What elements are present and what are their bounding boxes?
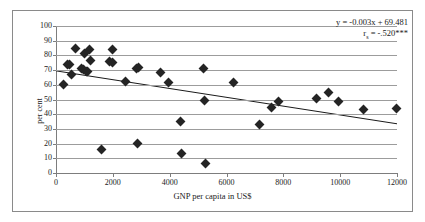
gridline-y-80	[56, 55, 397, 56]
gridline-y-10	[56, 158, 397, 159]
gridline-y-50	[56, 100, 397, 101]
y-tick-label-70: 70	[44, 66, 52, 74]
x-axis-title: GNP per capita in US$	[13, 191, 412, 201]
data-point	[71, 43, 81, 53]
x-tick-label-4000: 4000	[162, 179, 178, 187]
data-point	[274, 96, 284, 106]
y-tick-mark-60	[53, 85, 56, 86]
y-tick-mark-40	[53, 114, 56, 115]
gridline-y-60	[56, 85, 397, 86]
plot-area: 0102030405060708090100020004000600080001…	[56, 26, 397, 173]
data-point	[133, 138, 143, 148]
data-point	[97, 145, 107, 155]
x-tick-label-10000: 10000	[330, 179, 350, 187]
gridline-y-30	[56, 129, 397, 130]
y-tick-mark-100	[53, 26, 56, 27]
y-tick-label-40: 40	[44, 110, 52, 118]
data-point	[334, 96, 344, 106]
y-axis-title: per cent	[35, 98, 44, 124]
gridline-y-40	[56, 114, 397, 115]
data-point	[200, 158, 210, 168]
y-tick-label-90: 90	[44, 37, 52, 45]
data-point	[312, 94, 322, 104]
data-point	[156, 67, 166, 77]
x-tick-label-12000: 12000	[387, 179, 407, 187]
y-tick-label-100: 100	[40, 22, 52, 30]
correlation-statistic: rs = -.520***	[336, 28, 408, 43]
regression-annotation: y = -0.003x + 69.481 rs = -.520***	[336, 17, 408, 43]
x-tick-label-0: 0	[54, 179, 58, 187]
y-tick-label-60: 60	[44, 81, 52, 89]
x-tick-mark-6000	[227, 173, 228, 177]
data-point	[200, 96, 210, 106]
x-tick-label-2000: 2000	[105, 179, 121, 187]
y-tick-mark-80	[53, 55, 56, 56]
data-point	[58, 79, 68, 89]
data-point	[83, 67, 93, 77]
y-tick-mark-90	[53, 41, 56, 42]
y-tick-mark-10	[53, 158, 56, 159]
x-tick-mark-2000	[113, 173, 114, 177]
y-tick-label-50: 50	[44, 96, 52, 104]
y-tick-label-80: 80	[44, 51, 52, 59]
data-point	[176, 117, 186, 127]
y-tick-label-10: 10	[44, 154, 52, 162]
y-tick-mark-70	[53, 70, 56, 71]
chart-figure-frame: per cent 0102030405060708090100020004000…	[12, 10, 413, 212]
correlation-value: = -.520***	[369, 28, 409, 38]
data-point	[391, 103, 401, 113]
regression-equation: y = -0.003x + 69.481	[336, 17, 408, 28]
gridline-y-70	[56, 70, 397, 71]
data-point	[164, 78, 174, 88]
x-tick-mark-0	[56, 173, 57, 177]
x-tick-mark-4000	[170, 173, 171, 177]
x-tick-label-8000: 8000	[275, 179, 291, 187]
x-tick-mark-12000	[397, 173, 398, 177]
data-point	[229, 77, 239, 87]
x-tick-mark-10000	[340, 173, 341, 177]
y-tick-label-0: 0	[48, 169, 52, 177]
data-point	[67, 70, 77, 80]
data-point	[85, 56, 95, 66]
y-tick-mark-30	[53, 129, 56, 130]
y-tick-mark-50	[53, 100, 56, 101]
data-point	[199, 64, 209, 74]
y-tick-label-30: 30	[44, 125, 52, 133]
gridline-y-20	[56, 144, 397, 145]
data-point	[323, 87, 333, 97]
x-tick-label-6000: 6000	[219, 179, 235, 187]
y-tick-mark-20	[53, 144, 56, 145]
data-point	[108, 44, 118, 54]
y-tick-label-20: 20	[44, 140, 52, 148]
x-tick-mark-8000	[283, 173, 284, 177]
